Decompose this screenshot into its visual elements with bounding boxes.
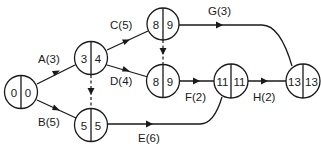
latest-time: 11 [234, 76, 246, 88]
latest-time: 9 [167, 19, 173, 31]
edge-f [179, 78, 214, 85]
arrow-icon [122, 66, 130, 72]
arrow-icon [88, 88, 95, 95]
activity-label-b: B(5) [38, 116, 60, 128]
earliest-time: 5 [81, 120, 87, 132]
latest-time: 9 [167, 76, 173, 88]
activity-label-c: C(5) [110, 19, 133, 31]
edge-a [37, 65, 75, 84]
activity-label-f: F(2) [185, 91, 206, 103]
event-node-6: 11 11 [214, 64, 248, 98]
dummy-edge-n2-n3 [88, 75, 95, 108]
edge-h [248, 78, 287, 85]
latest-time: 4 [95, 53, 102, 65]
event-node-2: 3 4 [75, 42, 108, 75]
arrow-icon [160, 48, 167, 55]
activity-label-e: E(6) [138, 132, 160, 144]
earliest-time: 11 [217, 76, 229, 88]
activity-label-d: D(4) [110, 75, 133, 87]
event-node-5: 8 9 [147, 65, 180, 98]
dummy-edge-n4-n5 [160, 40, 167, 64]
event-node-3: 5 5 [75, 109, 108, 142]
event-node-1: 0 0 [5, 76, 38, 109]
activity-label-h: H(2) [253, 91, 276, 103]
activity-label-a: A(3) [38, 53, 60, 65]
earliest-time: 8 [153, 19, 159, 31]
earliest-time: 13 [288, 76, 301, 88]
activity-label-g: G(3) [208, 5, 231, 17]
network-diagram: A(3) B(5) C(5) D(4) E(6) F(2) G(3) H(2) … [0, 0, 321, 151]
edge-g [179, 22, 292, 67]
arrow-icon [193, 78, 200, 85]
event-node-4: 8 9 [147, 8, 179, 40]
arrow-icon [146, 121, 153, 128]
arrow-icon [216, 22, 223, 29]
arrow-icon [261, 78, 268, 85]
event-node-7: 13 13 [286, 64, 320, 98]
edge-c [107, 31, 148, 50]
arrow-icon [52, 105, 60, 111]
earliest-time: 3 [81, 53, 87, 65]
earliest-time: 8 [153, 76, 159, 88]
latest-time: 0 [25, 87, 31, 99]
latest-time: 13 [305, 76, 318, 88]
earliest-time: 0 [11, 87, 17, 99]
latest-time: 5 [95, 120, 101, 132]
